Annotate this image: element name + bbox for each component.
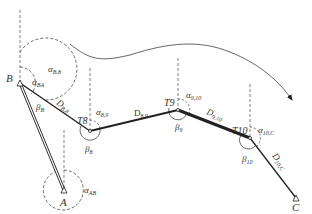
svg-text:β10: β10 [241, 154, 252, 165]
svg-text:αAB: αAB [84, 185, 96, 196]
svg-text:αBA: αBA [32, 77, 44, 88]
point-T9-label: T9 [164, 97, 175, 108]
svg-text:β9: β9 [174, 122, 182, 133]
svg-text:D8,9: D8,9 [134, 108, 148, 119]
distance-labels: DB,8 D8,9 D9,10 D10,C [53, 97, 290, 173]
svg-text:α9,10: α9,10 [186, 90, 201, 101]
direction-curve [70, 44, 292, 100]
point-B-label: B [6, 72, 13, 84]
svg-text:β8: β8 [84, 144, 92, 155]
point-T10-label: T10 [232, 125, 248, 136]
svg-text:α8,9: α8,9 [96, 107, 108, 118]
angle-arcs [20, 38, 260, 210]
svg-text:αB,8: αB,8 [48, 64, 61, 75]
svg-text:DB,8: DB,8 [53, 97, 72, 115]
svg-text:βB: βB [35, 102, 44, 113]
point-T8-label: T8 [77, 115, 88, 126]
svg-text:D10,C: D10,C [269, 150, 290, 173]
point-A-label: A [59, 196, 67, 208]
svg-text:α10,C: α10,C [258, 125, 275, 136]
traverse-diagram: B A T8 T9 T10 C αB,8 αBA βB αAB α8,9 β8 … [0, 0, 312, 214]
point-C-label: C [292, 201, 300, 213]
